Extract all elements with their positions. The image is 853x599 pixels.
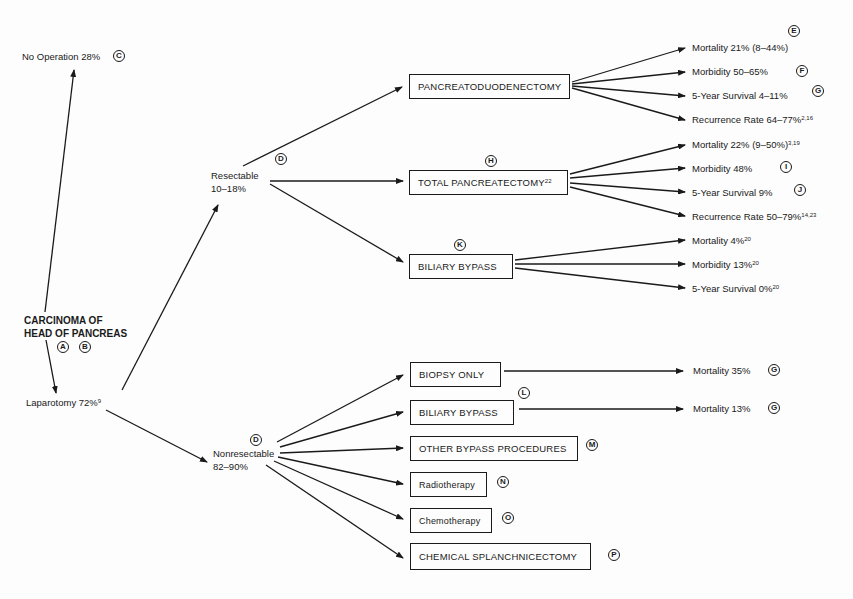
marker-f: F (796, 65, 808, 77)
nonresectable-label: Nonresectable (213, 448, 274, 460)
outcome-bb-mortality: Mortality 4%20 (692, 235, 751, 247)
outcome-pd-morbidity: Morbidity 50–65% (692, 66, 768, 78)
outcome-tp-recurrence: Recurrence Rate 50–79%14,23 (692, 211, 816, 223)
outcome-bypass-mortality: Mortality 13% (693, 403, 751, 415)
marker-g-pd: G (812, 85, 824, 97)
outcome-biopsy-mortality: Mortality 35% (693, 365, 751, 377)
marker-m: M (586, 439, 598, 451)
root-condition-line2: HEAD OF PANCREAS (24, 327, 127, 340)
marker-c: C (113, 50, 125, 62)
marker-e: E (788, 25, 800, 37)
outcome-tp-survival: 5-Year Survival 9% (692, 187, 772, 199)
outcome-pd-recurrence: Recurrence Rate 64–77%2,16 (692, 114, 813, 126)
marker-a: A (57, 341, 69, 353)
laparotomy-label: Laparotomy 72%9 (26, 397, 101, 409)
root-condition-line1: CARCINOMA OF (24, 314, 103, 327)
outcome-pd-mortality: Mortality 21% (8–44%) (692, 42, 788, 54)
no-operation-label: No Operation 28% (22, 51, 100, 63)
resectable-percent: 10–18% (211, 183, 246, 195)
marker-l: L (518, 387, 530, 399)
option-chemotherapy: Chemotherapy (410, 508, 492, 533)
marker-g-bypass: G (768, 402, 780, 414)
option-pancreatoduodenectomy: PANCREATODUODENECTOMY (409, 74, 570, 99)
outcome-bb-survival: 5-Year Survival 0%20 (692, 283, 779, 295)
option-biopsy-only: BIOPSY ONLY (410, 362, 501, 387)
outcome-tp-mortality: Mortality 22% (9–50%)3,19 (692, 139, 800, 151)
marker-k: K (454, 239, 466, 251)
marker-b: B (79, 341, 91, 353)
option-other-bypass-procedures: OTHER BYPASS PROCEDURES (410, 436, 578, 461)
marker-j: J (794, 184, 806, 196)
marker-d-nonresectable: D (250, 434, 262, 446)
outcome-pd-survival: 5-Year Survival 4–11% (692, 90, 788, 102)
marker-g-biopsy: G (768, 364, 780, 376)
marker-d-resectable: D (275, 153, 287, 165)
option-chemical-splanchnicectomy: CHEMICAL SPLANCHNICECTOMY (410, 543, 591, 570)
option-biliary-bypass-resectable: BILIARY BYPASS (409, 254, 513, 279)
nonresectable-percent: 82–90% (213, 461, 248, 473)
marker-h: H (485, 155, 497, 167)
marker-p: P (608, 549, 620, 561)
marker-i: I (780, 161, 792, 173)
marker-n: N (497, 476, 509, 488)
option-radiotherapy: Radiotherapy (410, 472, 487, 497)
resectable-label: Resectable (211, 170, 259, 182)
outcome-bb-morbidity: Morbidity 13%20 (692, 259, 759, 271)
marker-o: O (502, 512, 514, 524)
option-biliary-bypass-nonresectable: BILIARY BYPASS (410, 400, 514, 425)
option-total-pancreatectomy: TOTAL PANCREATECTOMY22 (409, 170, 568, 195)
outcome-tp-morbidity: Morbidity 48% (692, 163, 752, 175)
